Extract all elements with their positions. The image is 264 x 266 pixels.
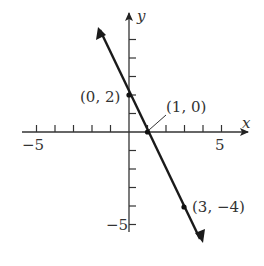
- point-label-3-neg4: (3, −4): [192, 198, 245, 216]
- y-axis: y −5: [106, 7, 146, 234]
- y-tick-label-min: −5: [106, 216, 128, 234]
- point-label-0-2: (0, 2): [80, 88, 120, 106]
- point-3-neg4: [181, 204, 186, 209]
- y-axis-label: y: [136, 7, 146, 25]
- coordinate-graph: x −5 5 y −5 (0, 2) (1, 0) (3, −4): [0, 0, 264, 266]
- point-0-2: [126, 92, 131, 97]
- point-label-1-0: (1, 0): [166, 98, 206, 116]
- x-tick-label-min: −5: [22, 136, 44, 154]
- x-axis: x −5 5: [22, 114, 251, 154]
- x-axis-label: x: [242, 114, 251, 132]
- leader-line: [149, 115, 166, 130]
- x-tick-label-max: 5: [215, 136, 225, 154]
